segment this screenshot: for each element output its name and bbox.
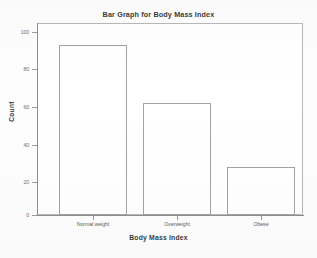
x-category-label-overweight: Overweight: [132, 221, 222, 227]
bar-chart-figure: Bar Graph for Body Mass Index 100 80 60 …: [0, 0, 317, 258]
y-tick-label-100: 100: [7, 29, 29, 35]
bar-normal-weight[interactable]: [59, 45, 127, 215]
y-tick-label-80: 80: [7, 66, 29, 72]
x-category-label-obese: Obese: [216, 221, 306, 227]
x-tick-mark-obese: [261, 216, 262, 220]
chart-title: Bar Graph for Body Mass Index: [0, 10, 317, 19]
bar-overweight[interactable]: [143, 103, 211, 215]
x-tick-mark-normal-weight: [93, 216, 94, 220]
y-tick-label-40: 40: [7, 142, 29, 148]
x-tick-mark-overweight: [177, 216, 178, 220]
y-axis-line: [37, 23, 38, 216]
x-axis-title: Body Mass Index: [0, 234, 317, 241]
y-tick-label-0: 0: [7, 212, 29, 218]
y-axis-title: Count: [8, 82, 15, 142]
x-category-label-normal-weight: Normal weight: [48, 221, 138, 227]
x-axis-line: [37, 215, 304, 216]
y-tick-label-20: 20: [7, 179, 29, 185]
bar-obese[interactable]: [227, 167, 295, 215]
